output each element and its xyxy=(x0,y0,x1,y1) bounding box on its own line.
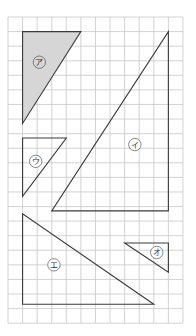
label-text: オ xyxy=(153,248,161,257)
triangle-e xyxy=(23,214,154,304)
triangle-u xyxy=(23,138,67,196)
triangle-label-a: ア xyxy=(33,56,45,68)
triangle-label-u: ウ xyxy=(30,155,42,167)
triangle-label-e: エ xyxy=(48,259,60,271)
triangle-label-o: オ xyxy=(151,246,163,258)
label-text: ウ xyxy=(32,157,40,166)
label-text: イ xyxy=(131,141,139,150)
triangle-label-i: イ xyxy=(129,138,141,150)
triangle-grid-figure: アイウエオ xyxy=(0,0,196,336)
label-text: ア xyxy=(35,58,43,67)
label-text: エ xyxy=(50,261,58,270)
triangle-o xyxy=(125,243,169,272)
labels-layer: アイウエオ xyxy=(30,56,163,271)
